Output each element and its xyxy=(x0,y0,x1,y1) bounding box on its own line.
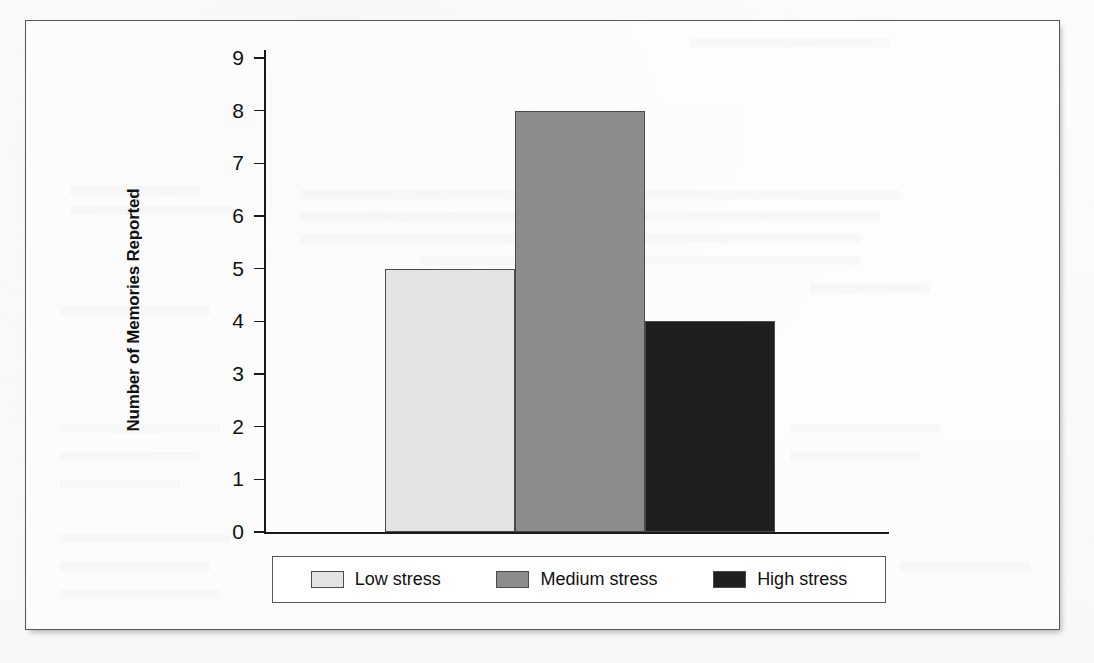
legend-swatch-icon xyxy=(496,571,529,588)
y-tick-mark xyxy=(254,110,264,112)
y-tick-mark xyxy=(254,215,264,217)
y-axis-title: Number of Memories Reported xyxy=(124,160,144,460)
legend-swatch-icon xyxy=(311,571,344,588)
chart-legend: Low stressMedium stressHigh stress xyxy=(272,556,886,603)
y-tick-label: 1 xyxy=(210,468,244,489)
y-tick-label: 0 xyxy=(210,521,244,542)
y-tick-label: 7 xyxy=(210,152,244,173)
legend-item-medium-stress[interactable]: Medium stress xyxy=(496,569,657,590)
y-tick-mark xyxy=(254,163,264,165)
y-tick-label: 6 xyxy=(210,205,244,226)
legend-item-low-stress[interactable]: Low stress xyxy=(311,569,441,590)
legend-label: Low stress xyxy=(355,569,441,590)
bar-medium-stress xyxy=(515,111,645,532)
legend-label: Medium stress xyxy=(540,569,657,590)
legend-item-high-stress[interactable]: High stress xyxy=(713,569,847,590)
y-tick-mark xyxy=(254,57,264,59)
bar-high-stress xyxy=(645,321,775,532)
y-tick-label: 8 xyxy=(210,100,244,121)
y-tick-mark xyxy=(254,479,264,481)
legend-swatch-icon xyxy=(713,571,746,588)
bar-chart: Number of Memories Reported 9876543210 L… xyxy=(0,0,1094,663)
y-tick-mark xyxy=(254,426,264,428)
y-tick-mark xyxy=(254,268,264,270)
y-axis-line xyxy=(264,50,266,534)
y-tick-mark xyxy=(254,531,264,533)
y-tick-label: 5 xyxy=(210,258,244,279)
legend-label: High stress xyxy=(757,569,847,590)
bar-low-stress xyxy=(385,269,515,532)
y-tick-label: 4 xyxy=(210,310,244,331)
y-tick-mark xyxy=(254,373,264,375)
y-tick-mark xyxy=(254,321,264,323)
y-tick-label: 3 xyxy=(210,363,244,384)
y-tick-label: 2 xyxy=(210,416,244,437)
y-tick-label: 9 xyxy=(210,47,244,68)
x-axis-line xyxy=(264,532,889,534)
